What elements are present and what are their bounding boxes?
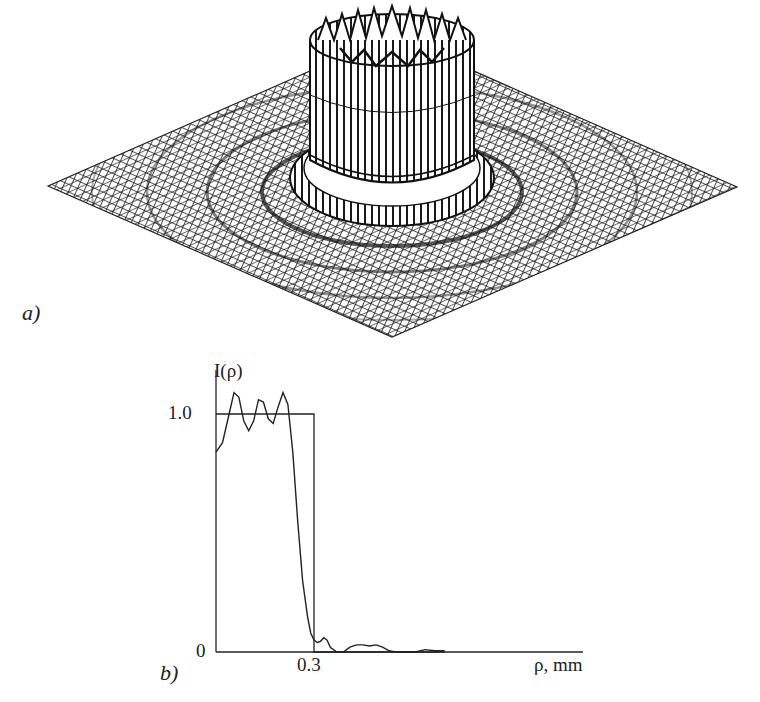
y-tick-1: 1.0 (168, 402, 192, 424)
ideal-profile-line (216, 414, 445, 652)
x-axis-label: ρ, mm (534, 654, 583, 676)
cylinder (290, 6, 494, 226)
line-plot-b (216, 370, 583, 652)
figure-canvas (0, 0, 760, 702)
panel-a-label: a) (22, 300, 40, 326)
intensity-curve (216, 393, 445, 652)
surface-plot-a (40, 6, 740, 340)
panel-b-label: b) (160, 660, 178, 686)
y-axis-label: I(ρ) (214, 360, 242, 382)
x-tick-03: 0.3 (297, 654, 321, 676)
y-tick-0: 0 (196, 640, 206, 662)
